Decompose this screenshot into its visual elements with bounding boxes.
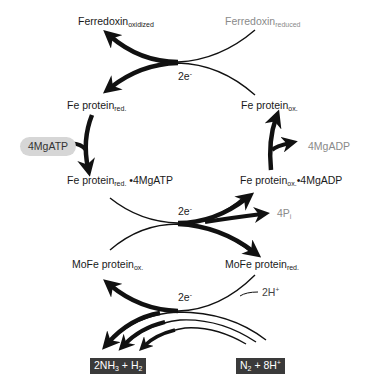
mgatp-input-pill: 4MgATP — [20, 137, 76, 156]
phosphate-output-label: 4Pi — [277, 208, 291, 220]
ferredoxin-arrow — [108, 30, 255, 62]
products-box: 2NH3 + H2 — [90, 358, 146, 374]
proton-input-label: 2H+ — [262, 287, 279, 298]
mofe-protein-ox-label: MoFe proteinox. — [72, 259, 143, 271]
electron-label-top: 2e- — [178, 71, 192, 82]
fe-protein-ox-mgadp-label: Fe proteinox.•4MgADP — [240, 175, 342, 187]
fe-protein-ox-label: Fe proteinox. — [241, 100, 298, 112]
fe-protein-red-label: Fe proteinred. — [67, 100, 126, 112]
bottom-exchange-arrows — [106, 275, 266, 348]
top-exchange-arrows — [108, 30, 255, 95]
mofe-protein-red-label: MoFe proteinred. — [225, 259, 299, 271]
mgadp-output-label: 4MgADP — [308, 141, 350, 152]
fe-protein-red-mgatp-label: Fe proteinred. •4MgATP — [67, 175, 173, 187]
ferredoxin-oxidized-label: Ferredoxinoxidized — [78, 16, 154, 28]
adp-release-arrow — [270, 118, 290, 170]
substrates-box: N2 + 8H+ — [236, 358, 285, 374]
electron-label-middle: 2e- — [178, 206, 192, 217]
electron-label-bottom: 2e- — [178, 292, 192, 303]
ferredoxin-reduced-label: Ferredoxinreduced — [225, 16, 301, 28]
nitrogenase-cycle-diagram — [0, 0, 367, 388]
